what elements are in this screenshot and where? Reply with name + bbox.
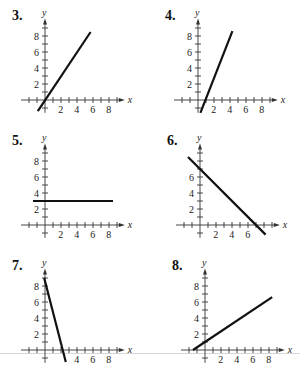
- graph-line-7: [44, 278, 66, 362]
- x-tick-label: 2: [213, 229, 218, 240]
- y-axis-arrow-icon: [203, 269, 207, 275]
- x-axis-arrow-icon: [119, 223, 125, 227]
- x-axis-label: x: [127, 94, 133, 105]
- y-tick-label: 4: [34, 188, 39, 199]
- y-tick-label: 2: [187, 79, 192, 90]
- x-tick-label: 4: [74, 354, 79, 365]
- x-tick-label: 8: [106, 354, 111, 365]
- x-axis-arrow-icon: [279, 348, 285, 352]
- panel-number: 7.: [12, 258, 23, 273]
- x-axis-label: x: [282, 219, 288, 230]
- y-tick-label: 4: [189, 188, 194, 199]
- graph-panel-5: 5.xy24682468: [12, 132, 133, 240]
- y-axis-label: y: [41, 257, 47, 268]
- x-axis-label: x: [127, 219, 133, 230]
- y-axis-label: y: [41, 132, 47, 143]
- panel-number: 4.: [165, 8, 176, 23]
- y-axis-arrow-icon: [43, 269, 47, 275]
- graph-panel-3: 3.xy24682468: [12, 7, 133, 115]
- y-axis-label: y: [194, 7, 200, 18]
- x-tick-label: 2: [58, 229, 63, 240]
- x-tick-label: 2: [58, 104, 63, 115]
- graph-line-4: [200, 31, 232, 113]
- y-tick-label: 2: [34, 79, 39, 90]
- x-tick-label: 6: [243, 104, 248, 115]
- y-tick-label: 6: [187, 47, 192, 58]
- y-tick-label: 6: [34, 47, 39, 58]
- x-axis-arrow-icon: [272, 98, 278, 102]
- y-tick-label: 2: [189, 204, 194, 215]
- x-tick-label: 4: [74, 104, 79, 115]
- y-axis-label: y: [41, 7, 47, 18]
- panel-number: 8.: [172, 258, 183, 273]
- panel-number: 3.: [12, 8, 23, 23]
- y-tick-label: 8: [34, 31, 39, 42]
- panel-number: 6.: [167, 133, 178, 148]
- y-tick-label: 6: [194, 297, 199, 308]
- y-tick-label: 2: [34, 204, 39, 215]
- graph-panel-7: 7.xy4682468: [12, 257, 133, 365]
- y-axis-arrow-icon: [43, 19, 47, 25]
- x-tick-label: 6: [245, 229, 250, 240]
- y-tick-label: 8: [187, 31, 192, 42]
- graph-panel-8: 8.xy24682468: [172, 257, 293, 365]
- x-tick-label: 8: [259, 104, 264, 115]
- x-tick-label: 4: [74, 229, 79, 240]
- y-tick-label: 2: [194, 329, 199, 340]
- x-axis-arrow-icon: [119, 348, 125, 352]
- y-tick-label: 6: [34, 172, 39, 183]
- y-axis-label: y: [196, 132, 202, 143]
- y-tick-label: 4: [187, 63, 192, 74]
- x-tick-label: 2: [218, 354, 223, 365]
- x-axis-arrow-icon: [274, 223, 280, 227]
- y-tick-label: 4: [34, 313, 39, 324]
- y-tick-label: 6: [189, 172, 194, 183]
- x-tick-label: 4: [227, 104, 232, 115]
- y-tick-label: 4: [194, 313, 199, 324]
- x-axis-label: x: [280, 94, 286, 105]
- y-tick-label: 2: [34, 329, 39, 340]
- x-tick-label: 6: [250, 354, 255, 365]
- y-axis-arrow-icon: [43, 144, 47, 150]
- x-tick-label: 8: [266, 354, 271, 365]
- y-tick-label: 4: [34, 63, 39, 74]
- x-tick-label: 8: [106, 104, 111, 115]
- graphs-figure: 3.xy246824684.xy246824685.xy246824686.xy…: [0, 0, 300, 380]
- graph-panel-6: 6.xy246246: [167, 132, 288, 240]
- x-tick-label: 6: [90, 354, 95, 365]
- x-tick-label: 4: [234, 354, 239, 365]
- y-tick-label: 8: [34, 156, 39, 167]
- x-tick-label: 6: [90, 229, 95, 240]
- y-tick-label: 8: [34, 281, 39, 292]
- x-tick-label: 8: [106, 229, 111, 240]
- graph-panel-4: 4.xy24682468: [165, 7, 286, 115]
- y-tick-label: 8: [194, 281, 199, 292]
- x-tick-label: 2: [211, 104, 216, 115]
- panel-number: 5.: [12, 133, 23, 148]
- x-axis-label: x: [287, 344, 293, 355]
- x-tick-label: 6: [90, 104, 95, 115]
- y-axis-arrow-icon: [198, 144, 202, 150]
- x-axis-arrow-icon: [119, 98, 125, 102]
- x-tick-label: 4: [229, 229, 234, 240]
- y-axis-arrow-icon: [196, 19, 200, 25]
- y-tick-label: 6: [34, 297, 39, 308]
- x-axis-label: x: [127, 344, 133, 355]
- y-axis-label: y: [201, 257, 207, 268]
